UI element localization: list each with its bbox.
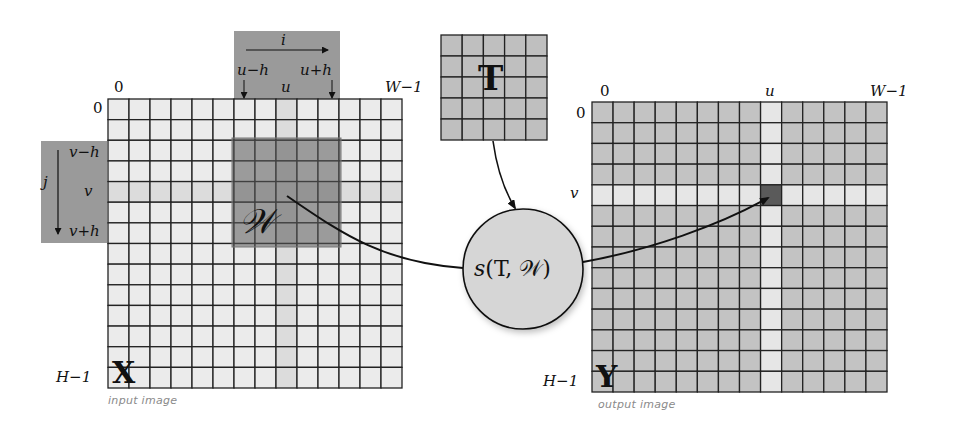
grid-cell [297, 305, 318, 326]
grid-cell [150, 99, 171, 120]
grid-cell [171, 99, 192, 120]
grid-cell [108, 244, 129, 265]
grid-cell [803, 288, 824, 309]
grid-cell [634, 102, 655, 123]
grid-cell [655, 143, 676, 164]
grid-cell [824, 330, 845, 351]
grid-cell [824, 247, 845, 268]
grid-cell [339, 305, 360, 326]
output-col-0-label: 0 [600, 84, 610, 99]
grid-cell [761, 330, 782, 351]
grid-cell [171, 223, 192, 244]
grid-cell [192, 264, 213, 285]
grid-cell [150, 202, 171, 223]
grid-cell [761, 185, 782, 206]
grid-cell [150, 305, 171, 326]
grid-cell [740, 268, 761, 289]
grid-cell [613, 247, 634, 268]
grid-cell [845, 226, 866, 247]
grid-cell [803, 164, 824, 185]
grid-cell [782, 268, 803, 289]
grid-cell [697, 351, 718, 372]
template-symbol: T [478, 61, 503, 95]
grid-cell [339, 367, 360, 388]
grid-cell [129, 120, 150, 141]
grid-cell [782, 330, 803, 351]
grid-cell [381, 140, 402, 161]
output-col-last-label: W−1 [870, 84, 908, 99]
grid-cell [108, 182, 129, 203]
grid-cell [824, 309, 845, 330]
grid-cell [761, 123, 782, 144]
grid-cell [360, 285, 381, 306]
grid-cell [718, 185, 739, 206]
grid-cell [129, 264, 150, 285]
label-u: u [281, 80, 291, 95]
grid-cell [108, 161, 129, 182]
grid-cell [803, 268, 824, 289]
grid-cell [171, 120, 192, 141]
grid-cell [718, 288, 739, 309]
grid-cell [613, 123, 634, 144]
grid-cell [129, 202, 150, 223]
grid-cell [381, 264, 402, 285]
label-u-plus-h: u+h [300, 63, 332, 78]
grid-cell [740, 371, 761, 392]
grid-cell [255, 305, 276, 326]
grid-cell [171, 244, 192, 265]
grid-cell [213, 367, 234, 388]
grid-cell [655, 102, 676, 123]
grid-cell [697, 185, 718, 206]
grid-cell [803, 123, 824, 144]
grid-cell [276, 326, 297, 347]
grid-cell [234, 264, 255, 285]
grid-cell [676, 164, 697, 185]
grid-cell [360, 326, 381, 347]
grid-cell [824, 185, 845, 206]
grid-cell [824, 351, 845, 372]
grid-cell [150, 140, 171, 161]
grid-cell [171, 326, 192, 347]
grid-cell [276, 264, 297, 285]
grid-cell [213, 182, 234, 203]
grid-cell [234, 305, 255, 326]
grid-cell [718, 247, 739, 268]
grid-cell [676, 185, 697, 206]
label-v-minus-h: v−h [69, 145, 100, 160]
grid-cell [740, 123, 761, 144]
grid-cell [782, 123, 803, 144]
grid-cell [866, 351, 887, 372]
grid-cell [697, 247, 718, 268]
grid-cell [526, 56, 547, 77]
grid-cell [697, 268, 718, 289]
similarity-args: (T, 𝒲) [485, 256, 551, 281]
grid-cell [213, 264, 234, 285]
grid-cell [740, 226, 761, 247]
grid-cell [803, 143, 824, 164]
grid-cell [824, 102, 845, 123]
grid-cell [213, 305, 234, 326]
grid-cell [462, 98, 483, 119]
grid-cell [255, 99, 276, 120]
grid-cell [339, 347, 360, 368]
grid-cell [108, 264, 129, 285]
grid-cell [718, 164, 739, 185]
grid-cell [108, 140, 129, 161]
grid-cell [339, 244, 360, 265]
grid-cell [505, 119, 526, 140]
grid-cell [866, 143, 887, 164]
grid-cell [339, 264, 360, 285]
grid-cell [761, 206, 782, 227]
grid-cell [676, 123, 697, 144]
output-image-caption: output image [598, 398, 676, 411]
grid-cell [360, 223, 381, 244]
grid-cell [761, 102, 782, 123]
grid-cell [740, 206, 761, 227]
grid-cell [255, 367, 276, 388]
grid-cell [213, 244, 234, 265]
grid-cell [824, 164, 845, 185]
grid-cell [318, 367, 339, 388]
window-symbol: 𝒲 [239, 204, 275, 238]
input-col-0-label: 0 [114, 80, 124, 95]
grid-cell [255, 264, 276, 285]
